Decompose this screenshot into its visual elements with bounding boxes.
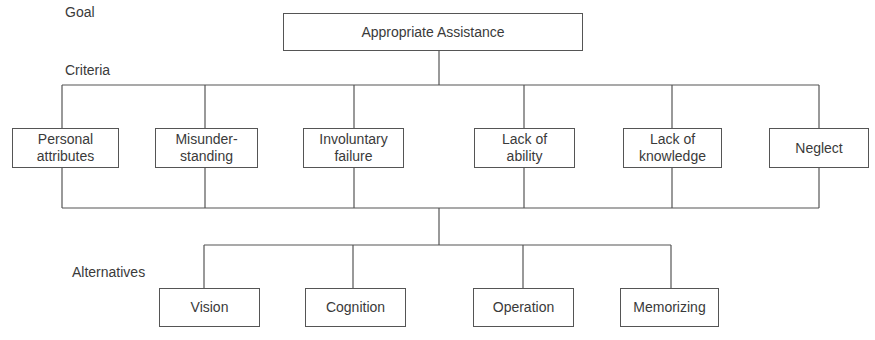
criteria-node-label: Lack of knowledge (639, 131, 706, 165)
alternative-node-vision: Vision (159, 288, 260, 327)
level-label-criteria: Criteria (65, 62, 110, 78)
alternative-node-operation: Operation (473, 288, 574, 327)
criteria-node-lack-of-knowledge: Lack of knowledge (623, 128, 722, 168)
criteria-node-label: Misunder- standing (175, 131, 237, 165)
alternative-node-label: Memorizing (633, 299, 705, 316)
criteria-node-label: Neglect (795, 140, 842, 157)
criteria-node-lack-of-ability: Lack of ability (474, 128, 575, 168)
criteria-node-involuntary-failure: Involuntary failure (303, 128, 404, 168)
criteria-node-misunderstanding: Misunder- standing (155, 128, 258, 168)
level-label-alternatives: Alternatives (72, 264, 145, 280)
alternative-node-label: Cognition (326, 299, 385, 316)
goal-node-label: Appropriate Assistance (361, 24, 504, 41)
goal-node: Appropriate Assistance (283, 13, 583, 51)
criteria-node-label: Lack of ability (502, 131, 547, 165)
alternative-node-label: Vision (191, 299, 229, 316)
criteria-node-neglect: Neglect (769, 128, 869, 168)
criteria-node-label: Personal attributes (37, 131, 95, 165)
connector-lines (0, 0, 875, 340)
criteria-node-personal-attributes: Personal attributes (12, 128, 119, 168)
level-label-goal: Goal (65, 4, 95, 20)
alternative-node-label: Operation (493, 299, 554, 316)
criteria-node-label: Involuntary failure (319, 131, 387, 165)
alternative-node-cognition: Cognition (305, 288, 406, 327)
alternative-node-memorizing: Memorizing (620, 288, 719, 327)
